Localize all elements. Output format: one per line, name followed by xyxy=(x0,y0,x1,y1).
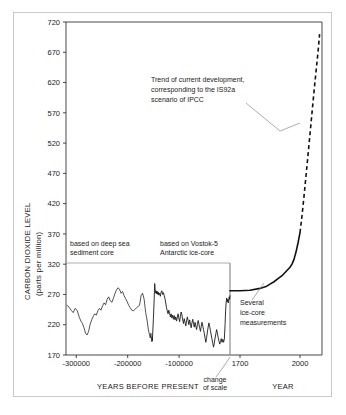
y-tick-label: 620 xyxy=(47,78,60,87)
source-label-vostok-line1: based on Vostok-5 xyxy=(160,240,218,247)
x-axis-title-paleo: YEARS BEFORE PRESENT xyxy=(97,382,199,391)
curve-deep-sea-sediment-core xyxy=(67,288,152,342)
x-tick-label: -300000 xyxy=(63,359,91,368)
figure-container: 170220270320370420470520570620670720 -30… xyxy=(0,0,346,415)
y-tick-label: 370 xyxy=(47,230,60,239)
x-tick-label: -200000 xyxy=(114,359,142,368)
scale-break-note-line1: change xyxy=(204,376,227,384)
annotation-leader-lines xyxy=(216,103,300,377)
leader-line-scalebreak xyxy=(216,357,230,377)
curve-is92a-projection xyxy=(300,34,320,233)
annotation-is92a-line2: corresponding to the IS92a xyxy=(151,86,235,94)
source-label-vostok: based on Vostok-5 Antarctic ice-core xyxy=(160,240,218,256)
scale-break-note-line2: of scale xyxy=(203,384,227,391)
y-tick-label: 220 xyxy=(47,320,60,329)
y-tick-label: 320 xyxy=(47,260,60,269)
leader-line-icecore xyxy=(252,283,264,300)
source-label-sediment-line2: sediment core xyxy=(70,249,114,256)
source-label-vostok-line2: Antarctic ice-core xyxy=(160,249,214,256)
co2-history-chart: 170220270320370420470520570620670720 -30… xyxy=(0,0,346,415)
x-tick-label: 1700 xyxy=(232,359,249,368)
curve-vostok-ice-core xyxy=(152,284,230,348)
annotation-is92a-line3: scenario of IPCC xyxy=(151,96,204,103)
x-axis-ticks: -300000-200000-10000017002000 xyxy=(63,355,309,368)
annotation-icecore-measurements: Several ice-core measurements xyxy=(240,299,287,326)
annotation-is92a: Trend of current development, correspond… xyxy=(151,76,245,103)
y-axis-title: CARBON DIOXIDE LEVEL (parts per million) xyxy=(23,202,43,300)
y-axis-ticks: 170220270320370420470520570620670720 xyxy=(47,18,66,360)
scale-break-note: change of scale xyxy=(203,376,227,391)
x-tick-label: 2000 xyxy=(292,359,309,368)
x-tick-label: -100000 xyxy=(165,359,193,368)
y-tick-label: 720 xyxy=(47,18,60,27)
leader-line-is92a xyxy=(246,103,300,131)
y-axis-title-main: CARBON DIOXIDE LEVEL xyxy=(23,202,32,300)
annotation-icecore-line3: measurements xyxy=(240,319,287,326)
source-label-sediment: based on deep sea sediment core xyxy=(70,240,130,256)
y-tick-label: 520 xyxy=(47,139,60,148)
y-tick-label: 570 xyxy=(47,109,60,118)
y-tick-label: 670 xyxy=(47,48,60,57)
y-tick-label: 470 xyxy=(47,169,60,178)
y-axis-title-units: (parts per million) xyxy=(34,231,43,296)
y-tick-label: 170 xyxy=(47,351,60,360)
annotation-icecore-line1: Several xyxy=(240,299,264,306)
y-tick-label: 270 xyxy=(47,290,60,299)
annotation-icecore-line2: ice-core xyxy=(240,309,265,316)
y-tick-label: 420 xyxy=(47,199,60,208)
curve-modern-record xyxy=(230,233,300,291)
x-axis-title-modern: YEAR xyxy=(272,382,294,391)
axes-frame xyxy=(66,22,322,355)
annotation-is92a-line1: Trend of current development, xyxy=(151,76,245,84)
source-label-sediment-line1: based on deep sea xyxy=(70,240,130,248)
